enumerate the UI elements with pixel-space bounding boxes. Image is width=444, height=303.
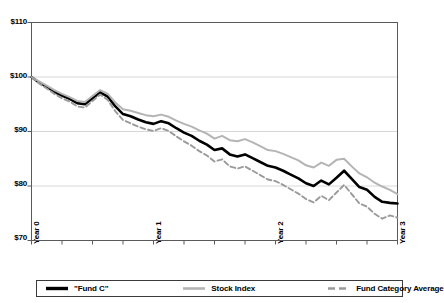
legend-entry-stock-index: Stock Index [182,281,255,296]
legend-entry-fund-category-average: Fund Category Average [327,281,444,296]
line-swatch-solid-gray-icon [182,284,206,293]
legend-label: "Fund C" [74,284,108,293]
legend-entry-fund-c: "Fund C" [45,281,108,296]
chart-legend: "Fund C" Stock Index Fund Category Avera… [36,280,403,297]
series-line [32,77,398,219]
series-lines [32,77,398,219]
legend-label: Stock Index [211,284,255,293]
series-line [32,77,398,194]
gridlines [32,77,398,186]
line-swatch-solid-black-icon [45,284,69,293]
x-axis-ticks [32,241,398,245]
line-swatch-dashed-gray-icon [327,284,351,293]
legend-label: Fund Category Average [356,284,444,293]
y-axis-ticks [28,23,32,241]
series-line [32,77,398,203]
